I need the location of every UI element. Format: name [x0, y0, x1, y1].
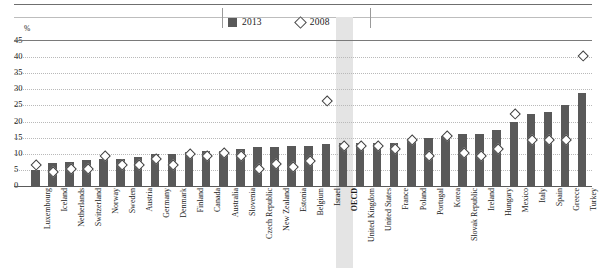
x-axis-baseline — [14, 186, 592, 187]
x-axis-label-text: Turkey — [586, 188, 602, 211]
bar-column[interactable] — [524, 41, 541, 186]
x-axis-label-norway[interactable]: Norway — [96, 188, 113, 266]
x-axis-label-belgium[interactable]: Belgium — [301, 188, 318, 266]
x-axis-label-united-states[interactable]: United States — [370, 188, 387, 266]
x-axis-category-labels: LuxembourgIcelandNetherlandsSwitzerlandN… — [28, 188, 592, 268]
bar-column[interactable] — [387, 41, 404, 186]
x-axis-label-czech-republic[interactable]: Czech Republic — [250, 188, 267, 266]
x-axis-label-iceland[interactable]: Iceland — [45, 188, 62, 266]
bar-swatch-icon — [228, 18, 237, 27]
x-axis-label-greece[interactable]: Greece — [558, 188, 575, 266]
plot-series-area — [28, 41, 592, 186]
y-axis-unit-label: % — [24, 24, 30, 33]
bar-column[interactable] — [131, 41, 148, 186]
x-axis-label-denmark[interactable]: Denmark — [165, 188, 182, 266]
bar-2013 — [527, 114, 536, 187]
bar-2013 — [441, 136, 450, 186]
legend-label-2013: 2013 — [242, 17, 262, 27]
bar-column[interactable] — [558, 41, 575, 186]
bar-column[interactable] — [438, 41, 455, 186]
bar-2013 — [492, 130, 501, 186]
x-axis-label-poland[interactable]: Poland — [404, 188, 421, 266]
x-axis-label-new-zealand[interactable]: New Zealand — [267, 188, 284, 266]
bar-2013 — [458, 134, 467, 186]
bar-column[interactable] — [489, 41, 506, 186]
bar-column[interactable] — [541, 41, 558, 186]
bar-2013 — [510, 122, 519, 186]
x-axis-label-canada[interactable]: Canada — [199, 188, 216, 266]
chart-root: 2013 2008 % 051015202530354045 Luxembour… — [0, 0, 602, 268]
bar-column[interactable] — [267, 41, 284, 186]
bar-column[interactable] — [182, 41, 199, 186]
bar-column[interactable] — [319, 41, 336, 186]
marker-2008 — [578, 50, 590, 62]
top-rule — [14, 4, 592, 5]
x-axis-label-germany[interactable]: Germany — [148, 188, 165, 266]
bar-column[interactable] — [28, 41, 45, 186]
x-axis-label-estonia[interactable]: Estonia — [284, 188, 301, 266]
x-axis-label-sweden[interactable]: Sweden — [113, 188, 130, 266]
bar-column[interactable] — [284, 41, 301, 186]
legend-item-2013: 2013 — [228, 17, 262, 27]
x-axis-label-israel[interactable]: Israel — [319, 188, 336, 266]
legend-label-2008: 2008 — [310, 17, 330, 27]
bar-2013 — [578, 93, 587, 186]
x-axis-label-portugal[interactable]: Portugal — [421, 188, 438, 266]
bar-column[interactable] — [370, 41, 387, 186]
x-axis-label-switzerland[interactable]: Switzerland — [79, 188, 96, 266]
bar-2013 — [99, 159, 108, 186]
marker-2008 — [321, 95, 333, 107]
bar-column[interactable] — [199, 41, 216, 186]
x-axis-label-netherlands[interactable]: Netherlands — [62, 188, 79, 266]
x-axis-label-austria[interactable]: Austria — [131, 188, 148, 266]
x-axis-label-slovak-republic[interactable]: Slovak Republic — [455, 188, 472, 266]
chart-legend: 2013 2008 — [228, 13, 330, 31]
bar-column[interactable] — [233, 41, 250, 186]
x-axis-label-italy[interactable]: Italy — [524, 188, 541, 266]
legend-divider-left — [222, 8, 223, 28]
bar-2013 — [322, 144, 331, 186]
bar-column[interactable] — [336, 41, 353, 186]
bar-column[interactable] — [455, 41, 472, 186]
bar-column[interactable] — [421, 41, 438, 186]
bar-column[interactable] — [472, 41, 489, 186]
legend-item-2008: 2008 — [296, 17, 330, 27]
bar-column[interactable] — [301, 41, 318, 186]
bar-column[interactable] — [165, 41, 182, 186]
legend-divider-right — [370, 8, 371, 28]
x-axis-label-united-kingdom[interactable]: United Kingdom — [353, 188, 370, 266]
x-axis-label-ireland[interactable]: Ireland — [472, 188, 489, 266]
x-axis-label-turkey[interactable]: Turkey — [575, 188, 592, 266]
diamond-swatch-icon — [294, 16, 307, 29]
x-axis-label-korea[interactable]: Korea — [438, 188, 455, 266]
x-axis-label-slovenia[interactable]: Slovenia — [233, 188, 250, 266]
x-axis-label-mexico[interactable]: Mexico — [507, 188, 524, 266]
x-axis-label-france[interactable]: France — [387, 188, 404, 266]
bar-2013 — [544, 112, 553, 186]
x-axis-label-oecd[interactable]: OECD — [336, 188, 353, 266]
bar-column[interactable] — [62, 41, 79, 186]
x-axis-label-hungary[interactable]: Hungary — [489, 188, 506, 266]
x-axis-label-australia[interactable]: Australia — [216, 188, 233, 266]
marker-2008 — [509, 108, 521, 120]
bar-column[interactable] — [507, 41, 524, 186]
bar-column[interactable] — [148, 41, 165, 186]
bar-column[interactable] — [113, 41, 130, 186]
bar-2013 — [407, 141, 416, 186]
bar-column[interactable] — [45, 41, 62, 186]
bar-column[interactable] — [79, 41, 96, 186]
x-axis-label-spain[interactable]: Spain — [541, 188, 558, 266]
bar-2013 — [31, 170, 40, 186]
bar-column[interactable] — [404, 41, 421, 186]
x-axis-label-finland[interactable]: Finland — [182, 188, 199, 266]
bar-column[interactable] — [96, 41, 113, 186]
bar-column[interactable] — [353, 41, 370, 186]
x-axis-label-luxembourg[interactable]: Luxembourg — [28, 188, 45, 266]
bar-column[interactable] — [250, 41, 267, 186]
bar-column[interactable] — [216, 41, 233, 186]
bar-column[interactable] — [575, 41, 592, 186]
